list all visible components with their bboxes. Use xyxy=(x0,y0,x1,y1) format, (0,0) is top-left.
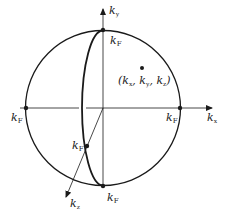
kf-point-left xyxy=(24,106,28,110)
kf-label-bottom: kF xyxy=(107,191,119,205)
kf-label-right: kF xyxy=(166,111,178,125)
kf-label-left: kF xyxy=(11,111,23,125)
sample-point-dot xyxy=(140,66,144,70)
kz-axis-label: kz xyxy=(70,197,80,210)
kx-axis-label: kx xyxy=(207,111,218,124)
fermi-sphere-diagram: ky kx kz kF kF kF kF kF (kx, ky, kz) xyxy=(0,0,227,212)
kf-point-bottom xyxy=(101,184,105,188)
ky-axis-label: ky xyxy=(109,4,120,18)
kf-label-front: kF xyxy=(72,139,84,153)
kf-point-top xyxy=(101,28,105,32)
kf-label-top: kF xyxy=(110,34,122,48)
kf-point-right xyxy=(178,106,182,110)
sample-point-label: (kx, ky, kz) xyxy=(118,74,171,88)
kf-point-front xyxy=(85,144,89,148)
